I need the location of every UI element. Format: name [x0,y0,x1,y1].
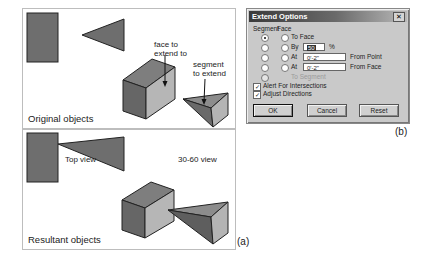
segment-radio-to-segment[interactable] [261,74,269,82]
segment-annotation-line-1: segment [193,60,226,69]
segment-annotation: segment to extend [193,60,226,78]
at-from-point-input[interactable]: 0'-2" [303,53,346,61]
segment-radio-at-point[interactable] [261,54,269,62]
adjust-directions-checkbox[interactable]: ✓ [253,91,261,99]
option-at-face-label: At [291,63,297,71]
by-percent-input[interactable]: 50 [303,43,325,51]
ok-button[interactable]: OK [253,104,293,117]
at-from-face-input[interactable]: 0'-2" [303,63,346,71]
segment-radio-to-face[interactable] [261,34,269,42]
segment-radio-by[interactable] [261,44,269,52]
face-annotation: face to extend to [154,40,187,58]
original-objects-label: Original objects [28,113,93,124]
cancel-button[interactable]: Cancel [307,104,347,117]
percent-unit: % [329,43,335,51]
alert-for-intersections-checkbox[interactable]: ✓ [253,83,261,91]
reset-button[interactable]: Reset [359,104,399,117]
face-radio-to-face[interactable] [281,34,289,42]
option-to-face-label: To Face [291,33,314,41]
original-objects-panel: face to extend to segment to extend Orig… [22,8,236,129]
by-percent-value: 50 [307,45,316,51]
dialog-title: Extend Options [252,11,307,22]
face-radio-at-point[interactable] [281,54,289,62]
triangle-top-view [82,19,124,51]
segment-radio-at-face[interactable] [261,64,269,72]
extend-options-dialog: Extend Options ✕ Segment Face To Face By… [246,8,410,124]
adjust-directions-label: Adjust Directions [263,90,312,98]
rectangle-top-view [27,13,58,62]
face-header: Face [277,25,291,33]
face-radio-at-face[interactable] [281,64,289,72]
face-radio-by[interactable] [281,44,289,52]
close-icon[interactable]: ✕ [393,12,405,22]
from-face-label: From Face [350,63,381,71]
dialog-titlebar[interactable]: Extend Options ✕ [249,11,407,22]
iso-view-label: 30-60 view [178,155,217,164]
figure-a-tag: (a) [237,236,249,247]
face-annotation-line-2: extend to [154,49,187,58]
option-to-segment-label: To Segment [291,73,326,81]
figure-b-tag: (b) [395,126,407,137]
top-view-label: Top view [65,155,96,164]
alert-for-intersections-label: Alert For Intersections [263,82,327,90]
from-point-label: From Point [350,53,382,61]
option-by-label: By [291,43,299,51]
segment-header: Segment [253,25,279,33]
resultant-objects-drawing [23,130,235,249]
segment-annotation-line-2: to extend [193,69,226,78]
resultant-objects-panel: Top view 30-60 view Resultant objects [22,129,236,250]
option-at-point-label: At [291,53,297,61]
resultant-objects-label: Resultant objects [28,234,101,245]
face-annotation-line-1: face to [154,40,187,49]
